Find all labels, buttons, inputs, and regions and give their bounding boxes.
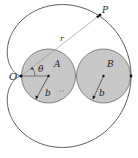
- circle-a-center-dot: [47, 75, 49, 77]
- label-circle-b: B: [106, 59, 114, 69]
- label-point-p: P: [101, 5, 109, 15]
- origin-dot: [19, 74, 22, 77]
- label-radius-a: b: [45, 88, 51, 98]
- label-radius-b: b: [99, 88, 105, 98]
- label-origin: O: [9, 71, 17, 82]
- point-p-dot: [99, 14, 102, 17]
- label-r: r: [60, 34, 65, 43]
- circle-b-center-dot: [102, 75, 104, 77]
- label-theta: θ: [38, 64, 44, 74]
- label-circle-a: A: [53, 59, 61, 69]
- contact-dot: [130, 75, 133, 78]
- cardioid-diagram: O P r θ A B b b: [0, 0, 138, 158]
- decor-dot: [60, 91, 61, 92]
- decor-dot: [63, 91, 64, 92]
